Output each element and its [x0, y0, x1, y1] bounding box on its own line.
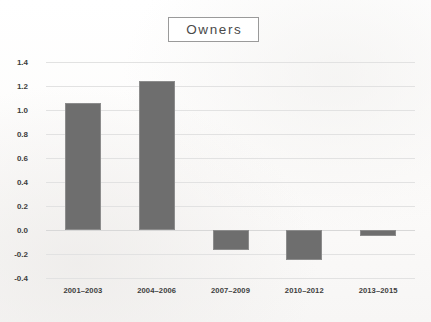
y-axis-tick-label: 1.0 — [0, 106, 28, 115]
y-axis-tick-label: 0.0 — [0, 226, 28, 235]
y-axis-tick-label: -0.4 — [0, 274, 28, 283]
gridline — [46, 158, 415, 159]
plot-area: 1.41.21.00.80.60.40.20.0-0.2-0.4 — [46, 62, 415, 278]
chart-title: Owners — [185, 22, 243, 37]
y-axis-tick-label: -0.2 — [0, 250, 28, 259]
chart-title-box: Owners — [168, 17, 259, 42]
gridline — [46, 86, 415, 87]
gridline — [46, 278, 415, 279]
bar — [213, 230, 249, 250]
x-axis-tick-label: 2007–2009 — [211, 286, 250, 295]
bar — [360, 230, 396, 236]
x-axis-tick-label: 2004–2006 — [137, 286, 176, 295]
gridline — [46, 134, 415, 135]
chart-page: Owners 1.41.21.00.80.60.40.20.0-0.2-0.4 … — [0, 0, 431, 322]
y-axis-tick-label: 0.4 — [0, 178, 28, 187]
bar — [65, 103, 101, 230]
y-axis-tick-label: 1.2 — [0, 82, 28, 91]
gridline — [46, 182, 415, 183]
y-axis-tick-label: 0.2 — [0, 202, 28, 211]
y-axis-tick-label: 0.6 — [0, 154, 28, 163]
bar — [286, 230, 322, 260]
x-axis-tick-label: 2001–2003 — [63, 286, 102, 295]
bar — [139, 81, 175, 230]
x-axis-tick-label: 2010–2012 — [285, 286, 324, 295]
gridline — [46, 62, 415, 63]
y-axis-tick-label: 1.4 — [0, 58, 28, 67]
x-axis-tick-label: 2013–2015 — [359, 286, 398, 295]
y-axis-tick-label: 0.8 — [0, 130, 28, 139]
gridline — [46, 254, 415, 255]
gridline — [46, 110, 415, 111]
gridline — [46, 206, 415, 207]
